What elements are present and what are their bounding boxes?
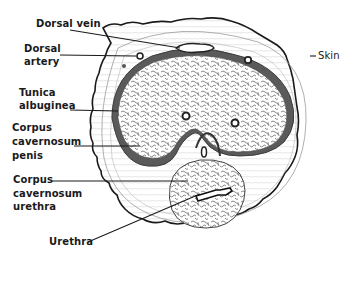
dorsal-nerve-left: [122, 64, 126, 68]
label-urethra: Urethra: [49, 236, 93, 248]
label-corpus-cavernosum-penis-line2: cavernosum: [12, 136, 81, 148]
deep-artery-right: [232, 120, 239, 127]
label-corpus-cavernosum-urethra-line2: cavernosum: [13, 188, 82, 200]
label-dorsal-artery-line2: artery: [24, 56, 59, 68]
dorsal-nerve-right: [261, 67, 267, 71]
label-dorsal-artery-line1: Dorsal: [24, 43, 61, 55]
label-corpus-cavernosum-urethra-line1: Corpus: [13, 174, 53, 186]
dorsal-artery-right: [245, 57, 251, 63]
deep-artery-left: [183, 113, 190, 120]
dorsal-artery-left: [137, 53, 143, 59]
label-skin: Skin: [318, 50, 340, 62]
anatomy-figure: Dorsal vein Dorsal artery Skin Tunica al…: [0, 0, 356, 282]
label-corpus-cavernosum-urethra-line3: urethra: [13, 201, 56, 213]
dorsal-vein: [176, 44, 214, 53]
label-dorsal-vein: Dorsal vein: [36, 18, 101, 30]
label-corpus-cavernosum-penis-line1: Corpus: [12, 122, 52, 134]
label-corpus-cavernosum-penis-line3: penis: [12, 150, 43, 162]
label-tunica-albuginea-line2: albuginea: [19, 100, 76, 112]
label-tunica-albuginea-line1: Tunica: [19, 87, 56, 99]
figure-caption-clipped: [34, 275, 354, 282]
deep-artery-center: [202, 147, 207, 157]
